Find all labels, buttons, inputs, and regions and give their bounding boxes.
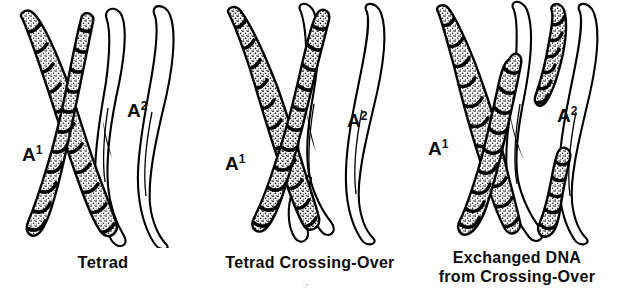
panel-crossing-over-artwork (207, 0, 413, 248)
label-a1: A1 (22, 144, 42, 166)
caption-line: Tetrad Crossing-Over (207, 253, 413, 272)
scan-speckle-artifact: ˙·˚ (303, 284, 307, 291)
panel-crossing-over: A1 A2 Tetrad Crossing-Over ˙·˚ (207, 0, 413, 295)
caption-exchanged-dna: Exchanged DNA from Crossing-Over (414, 248, 620, 286)
caption-line: Tetrad (0, 253, 206, 272)
caption-crossing-over: Tetrad Crossing-Over (207, 253, 413, 272)
label-a2: A2 (127, 100, 147, 122)
label-a2: A2 (557, 105, 577, 127)
label-a1: A1 (225, 153, 245, 175)
caption-line: from Crossing-Over (414, 267, 620, 286)
panel-exchanged-dna-artwork (414, 0, 620, 248)
panel-tetrad-artwork (0, 0, 206, 248)
caption-line: Exchanged DNA (414, 248, 620, 267)
crossing-over-figure: A1 A2 Tetrad (0, 0, 620, 295)
label-a1: A1 (428, 138, 448, 160)
a2-exchanged-segment-top (530, 4, 566, 106)
label-a2: A2 (347, 110, 367, 132)
caption-tetrad: Tetrad (0, 253, 206, 272)
panel-tetrad: A1 A2 Tetrad (0, 0, 206, 295)
panel-exchanged-dna: A1 A2 Exchanged DNA from Crossing-Over (414, 0, 620, 295)
